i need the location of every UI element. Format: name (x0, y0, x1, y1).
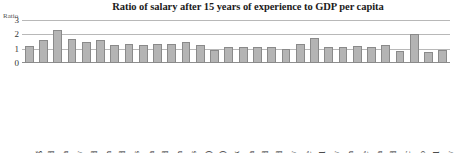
x-tick-label: Germany (75, 151, 84, 153)
x-tick-label: Finland (261, 151, 270, 153)
x-tick-label: Sweden (346, 151, 355, 153)
x-tick-label: Greece (361, 151, 370, 153)
bar (139, 45, 148, 63)
bar (96, 40, 105, 63)
bar (282, 49, 291, 63)
x-tick-label: Netherlands (132, 151, 141, 153)
x-tick-label: Spain (175, 151, 184, 153)
x-tick-label: Portugal (318, 151, 327, 153)
chart-title: Ratio of salary after 15 years of experi… (48, 1, 448, 12)
x-tick-label: France (304, 151, 313, 153)
bar (424, 52, 433, 63)
y-tick-label-0: 0 (15, 59, 20, 68)
x-tick-label: England (161, 151, 170, 153)
y-tick-label-2: 2 (15, 30, 20, 39)
x-tick-label: Mexico (418, 151, 427, 153)
chart-container: Ratio of salary after 15 years of experi… (0, 0, 456, 153)
x-tick-label: Scotland (90, 151, 99, 153)
x-tick-label: New Zealand (275, 151, 284, 153)
x-axis-category-labels: LuxembourgSwitzerlandKoreaGermanyScotlan… (22, 64, 450, 153)
bar (239, 47, 248, 63)
bar (310, 38, 319, 63)
bar (25, 46, 34, 63)
bar (410, 34, 419, 63)
bar (82, 42, 91, 63)
x-tick-label: Italy (332, 151, 341, 153)
x-tick-label: Slovenia (375, 151, 384, 153)
x-tick-label: Israel (432, 151, 441, 153)
x-tick-label: Korea (61, 151, 70, 153)
bar (153, 44, 162, 63)
x-tick-label: Luxembourg (33, 151, 42, 153)
bar-series (22, 20, 450, 63)
x-tick-label: Iceland (389, 151, 398, 153)
x-tick-label: Hungary (446, 151, 455, 153)
bar (53, 30, 62, 63)
bar (367, 47, 376, 63)
x-tick-label: Austria (247, 151, 256, 153)
x-tick-label: Belgium (Fl.) (204, 151, 213, 153)
bar (267, 47, 276, 63)
x-tick-label: Japan (104, 151, 113, 153)
bar (224, 47, 233, 63)
bar (339, 47, 348, 63)
y-tick-label-3: 3 (15, 16, 20, 25)
plot-area (22, 20, 450, 63)
bar (196, 45, 205, 63)
bar (253, 47, 262, 63)
bar (396, 51, 405, 63)
bar (438, 50, 447, 63)
x-tick-label: Denmark (232, 151, 241, 153)
bar (296, 44, 305, 63)
bar (182, 42, 191, 63)
y-axis-ticks: 0123 (0, 20, 22, 65)
x-tick-label: United States (189, 151, 198, 153)
bar (110, 45, 119, 63)
x-tick-label: Belgium (Fr.) (218, 151, 227, 153)
bar (39, 40, 48, 63)
x-tick-label: Norway (289, 151, 298, 153)
y-tick-label-1: 1 (15, 44, 20, 53)
bar (324, 47, 333, 63)
bar (167, 44, 176, 63)
x-tick-label: Czech Republic (403, 151, 412, 153)
bar (353, 46, 362, 63)
bar (125, 44, 134, 63)
x-tick-label: Ireland (118, 151, 127, 153)
bar (68, 39, 77, 63)
x-tick-label: Switzerland (47, 151, 56, 153)
x-tick-label: Australia (147, 151, 156, 153)
bar (210, 50, 219, 63)
bar (381, 45, 390, 63)
